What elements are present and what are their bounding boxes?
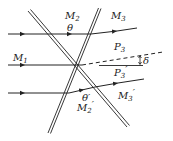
label-p3: P3 — [113, 41, 126, 54]
label-m3-prime: M3′ — [117, 87, 136, 103]
mirror-diagonal-b — [48, 8, 101, 134]
label-m3: M3 — [110, 10, 126, 23]
label-m1: M1 — [12, 52, 28, 65]
delta-angle-marker — [139, 56, 142, 65]
label-delta: δ — [143, 55, 149, 66]
ray-diagram: M2 θ M3 P3 M1 δ P3′ θ′ M3′ M2′ — [0, 0, 173, 141]
label-p3-prime: P3′ — [113, 64, 128, 80]
label-theta: θ — [67, 22, 73, 33]
label-m2-prime: M2′ — [76, 99, 95, 115]
